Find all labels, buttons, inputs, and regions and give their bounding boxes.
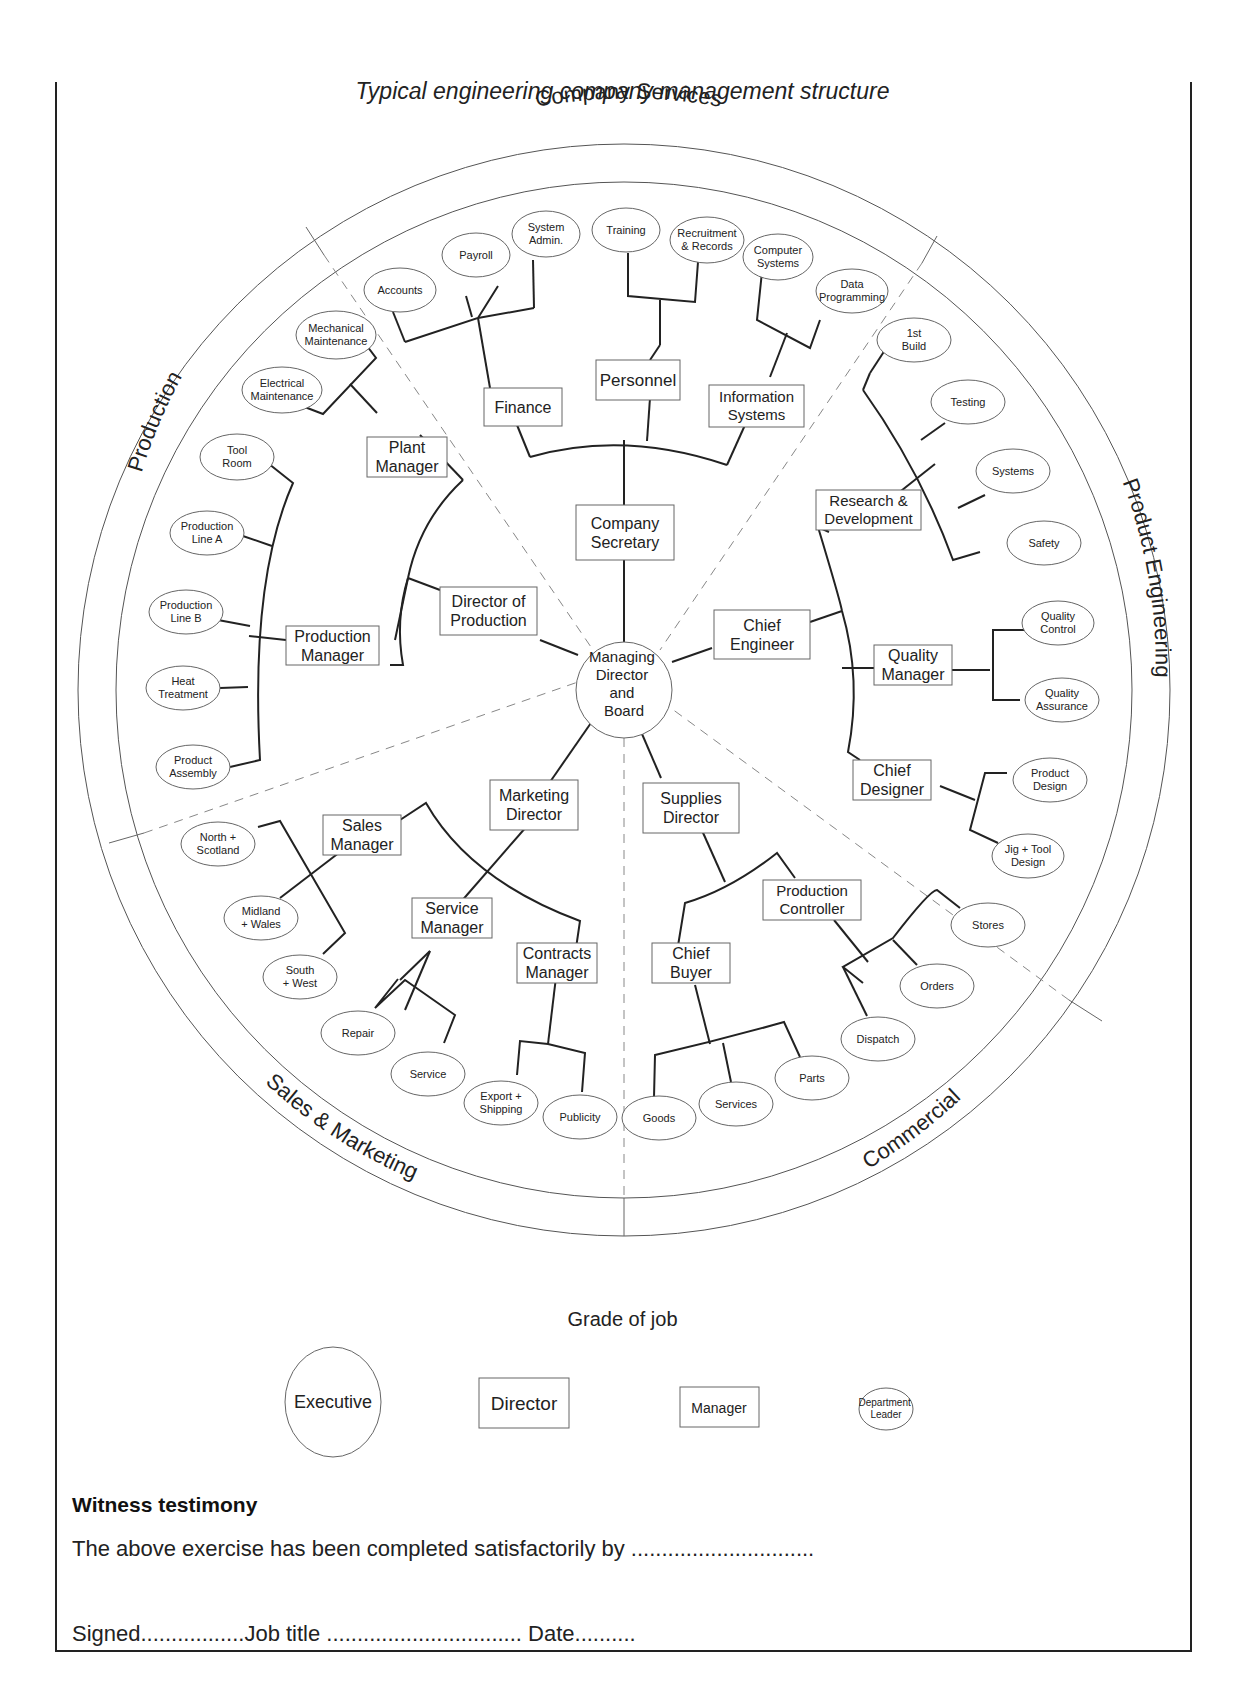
node-service-manager[interactable]: ServiceManager <box>412 898 492 938</box>
svg-text:Systems: Systems <box>992 465 1035 477</box>
node-quality-assurance[interactable]: QualityAssurance <box>1025 678 1099 722</box>
node-personnel[interactable]: Personnel <box>596 360 680 400</box>
node-sales-manager[interactable]: SalesManager <box>323 815 401 855</box>
svg-text:Midland+ Wales: Midland+ Wales <box>241 905 281 930</box>
svg-text:Goods: Goods <box>643 1112 676 1124</box>
node-north-scotland[interactable]: North +Scotland <box>181 822 255 866</box>
svg-text:Accounts: Accounts <box>377 284 423 296</box>
node-chief-buyer[interactable]: ChiefBuyer <box>652 943 730 983</box>
node-goods[interactable]: Goods <box>622 1096 696 1140</box>
node-product-design[interactable]: ProductDesign <box>1013 758 1087 802</box>
node-information-systems[interactable]: InformationSystems <box>709 385 804 427</box>
node-quality-control[interactable]: QualityControl <box>1022 601 1094 645</box>
sector-label-company-services: Company Services <box>533 79 723 112</box>
node-product-assembly[interactable]: ProductAssembly <box>156 745 230 789</box>
node-first-build[interactable]: 1stBuild <box>877 318 951 362</box>
svg-text:Stores: Stores <box>972 919 1004 931</box>
node-export-shipping[interactable]: Export +Shipping <box>464 1081 538 1125</box>
svg-text:Training: Training <box>606 224 645 236</box>
svg-text:SystemAdmin.: SystemAdmin. <box>528 221 565 246</box>
svg-text:Service: Service <box>410 1068 447 1080</box>
node-jig-tool-design[interactable]: Jig + ToolDesign <box>992 834 1064 878</box>
svg-text:Manager: Manager <box>691 1400 747 1416</box>
node-accounts[interactable]: Accounts <box>364 268 436 312</box>
node-midland-wales[interactable]: Midland+ Wales <box>224 896 298 940</box>
svg-text:North +Scotland: North +Scotland <box>197 831 240 856</box>
node-stores[interactable]: Stores <box>951 903 1025 947</box>
node-finance[interactable]: Finance <box>484 388 562 426</box>
svg-text:Executive: Executive <box>294 1392 372 1412</box>
node-chief-engineer[interactable]: ChiefEngineer <box>714 610 810 659</box>
node-supplies-director[interactable]: SuppliesDirector <box>643 783 739 833</box>
node-south-west[interactable]: South+ West <box>263 955 337 999</box>
node-tool-room[interactable]: ToolRoom <box>200 434 274 480</box>
node-production-line-b[interactable]: ProductionLine B <box>149 590 223 634</box>
legend: Executive Director Manager Department Le… <box>285 1347 914 1457</box>
sector-label-production: Production <box>122 367 186 475</box>
svg-text:ProductDesign: ProductDesign <box>1031 767 1069 792</box>
svg-text:ProductionController: ProductionController <box>776 882 848 917</box>
node-publicity[interactable]: Publicity <box>543 1095 617 1139</box>
node-system-admin[interactable]: SystemAdmin. <box>512 211 580 257</box>
node-repair[interactable]: Repair <box>321 1011 395 1055</box>
node-heat-treatment[interactable]: HeatTreatment <box>146 666 220 710</box>
svg-text:ProductAssembly: ProductAssembly <box>169 754 217 779</box>
node-chief-designer[interactable]: ChiefDesigner <box>853 760 931 800</box>
svg-text:ElectricalMaintenance: ElectricalMaintenance <box>251 377 314 402</box>
node-electrical-maintenance[interactable]: ElectricalMaintenance <box>242 367 322 413</box>
svg-text:Recruitment& Records: Recruitment& Records <box>677 227 736 252</box>
svg-text:Publicity: Publicity <box>560 1111 601 1123</box>
node-recruitment[interactable]: Recruitment& Records <box>670 217 744 263</box>
svg-text:Export +Shipping: Export +Shipping <box>480 1090 523 1115</box>
svg-text:Payroll: Payroll <box>459 249 493 261</box>
svg-text:Testing: Testing <box>951 396 986 408</box>
legend-manager: Manager <box>680 1387 759 1427</box>
node-data-programming[interactable]: DataProgramming <box>816 269 888 313</box>
node-production-controller[interactable]: ProductionController <box>763 880 861 920</box>
node-systems[interactable]: Systems <box>976 449 1050 493</box>
node-orders[interactable]: Orders <box>900 964 974 1008</box>
node-research-development[interactable]: Research &Development <box>816 490 921 530</box>
node-testing[interactable]: Testing <box>931 380 1005 424</box>
node-plant-manager[interactable]: PlantManager <box>367 437 447 477</box>
svg-text:QualityControl: QualityControl <box>1040 610 1075 635</box>
svg-text:Orders: Orders <box>920 980 954 992</box>
svg-text:Parts: Parts <box>799 1072 825 1084</box>
witness-signature-line[interactable]: Signed.................Job title .......… <box>72 1621 636 1647</box>
node-computer-systems[interactable]: ComputerSystems <box>743 234 813 280</box>
svg-text:Research &Development: Research &Development <box>824 492 913 527</box>
node-dispatch[interactable]: Dispatch <box>841 1017 915 1061</box>
node-company-secretary[interactable]: CompanySecretary <box>576 505 674 560</box>
svg-text:South+ West: South+ West <box>283 964 317 989</box>
org-chart-diagram: Company Services Production Product Engi… <box>0 0 1245 1702</box>
svg-text:Safety: Safety <box>1028 537 1060 549</box>
svg-text:Services: Services <box>715 1098 758 1110</box>
node-marketing-director[interactable]: MarketingDirector <box>490 780 578 830</box>
node-production-manager[interactable]: ProductionManager <box>286 626 379 665</box>
node-managing-director[interactable]: Managing Director and Board <box>576 642 672 738</box>
node-production-line-a[interactable]: ProductionLine A <box>170 511 244 555</box>
node-services[interactable]: Services <box>699 1082 773 1126</box>
node-contracts-manager[interactable]: ContractsManager <box>517 943 597 983</box>
svg-text:Personnel: Personnel <box>600 371 677 390</box>
svg-text:Jig + ToolDesign: Jig + ToolDesign <box>1005 843 1052 868</box>
svg-text:ComputerSystems: ComputerSystems <box>754 244 803 269</box>
node-director-of-production[interactable]: Director ofProduction <box>440 587 537 635</box>
node-mechanical-maintenance[interactable]: MechanicalMaintenance <box>296 311 376 359</box>
svg-text:Director: Director <box>491 1393 558 1414</box>
legend-department-leader: Department Leader <box>858 1388 913 1430</box>
node-training[interactable]: Training <box>592 208 660 252</box>
node-quality-manager[interactable]: QualityManager <box>874 645 952 685</box>
legend-executive: Executive <box>285 1347 381 1457</box>
witness-completed-by-line[interactable]: The above exercise has been completed sa… <box>72 1536 814 1562</box>
node-parts[interactable]: Parts <box>775 1056 849 1100</box>
node-payroll[interactable]: Payroll <box>442 233 510 277</box>
node-safety[interactable]: Safety <box>1007 521 1081 565</box>
svg-text:InformationSystems: InformationSystems <box>719 388 794 423</box>
legend-title: Grade of job <box>0 1308 1245 1331</box>
node-service[interactable]: Service <box>391 1052 465 1096</box>
svg-text:Repair: Repair <box>342 1027 375 1039</box>
svg-text:MechanicalMaintenance: MechanicalMaintenance <box>305 322 368 347</box>
sector-label-product-engineering: Product Engineering <box>1118 475 1176 678</box>
legend-director: Director <box>479 1378 569 1428</box>
